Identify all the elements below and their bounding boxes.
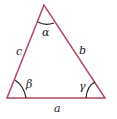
- angle-gamma-label: γ: [79, 80, 86, 93]
- angle-alpha-label: α: [42, 26, 50, 39]
- beta-arc: [15, 80, 26, 98]
- side-a-label: a: [54, 102, 61, 115]
- angle-beta-label: β: [25, 78, 32, 91]
- alpha-arc: [38, 22, 54, 24]
- side-c-label: c: [16, 45, 22, 58]
- gamma-arc: [86, 82, 95, 98]
- side-b-label: b: [79, 44, 86, 57]
- triangle-diagram: α β γ a b c: [0, 0, 117, 119]
